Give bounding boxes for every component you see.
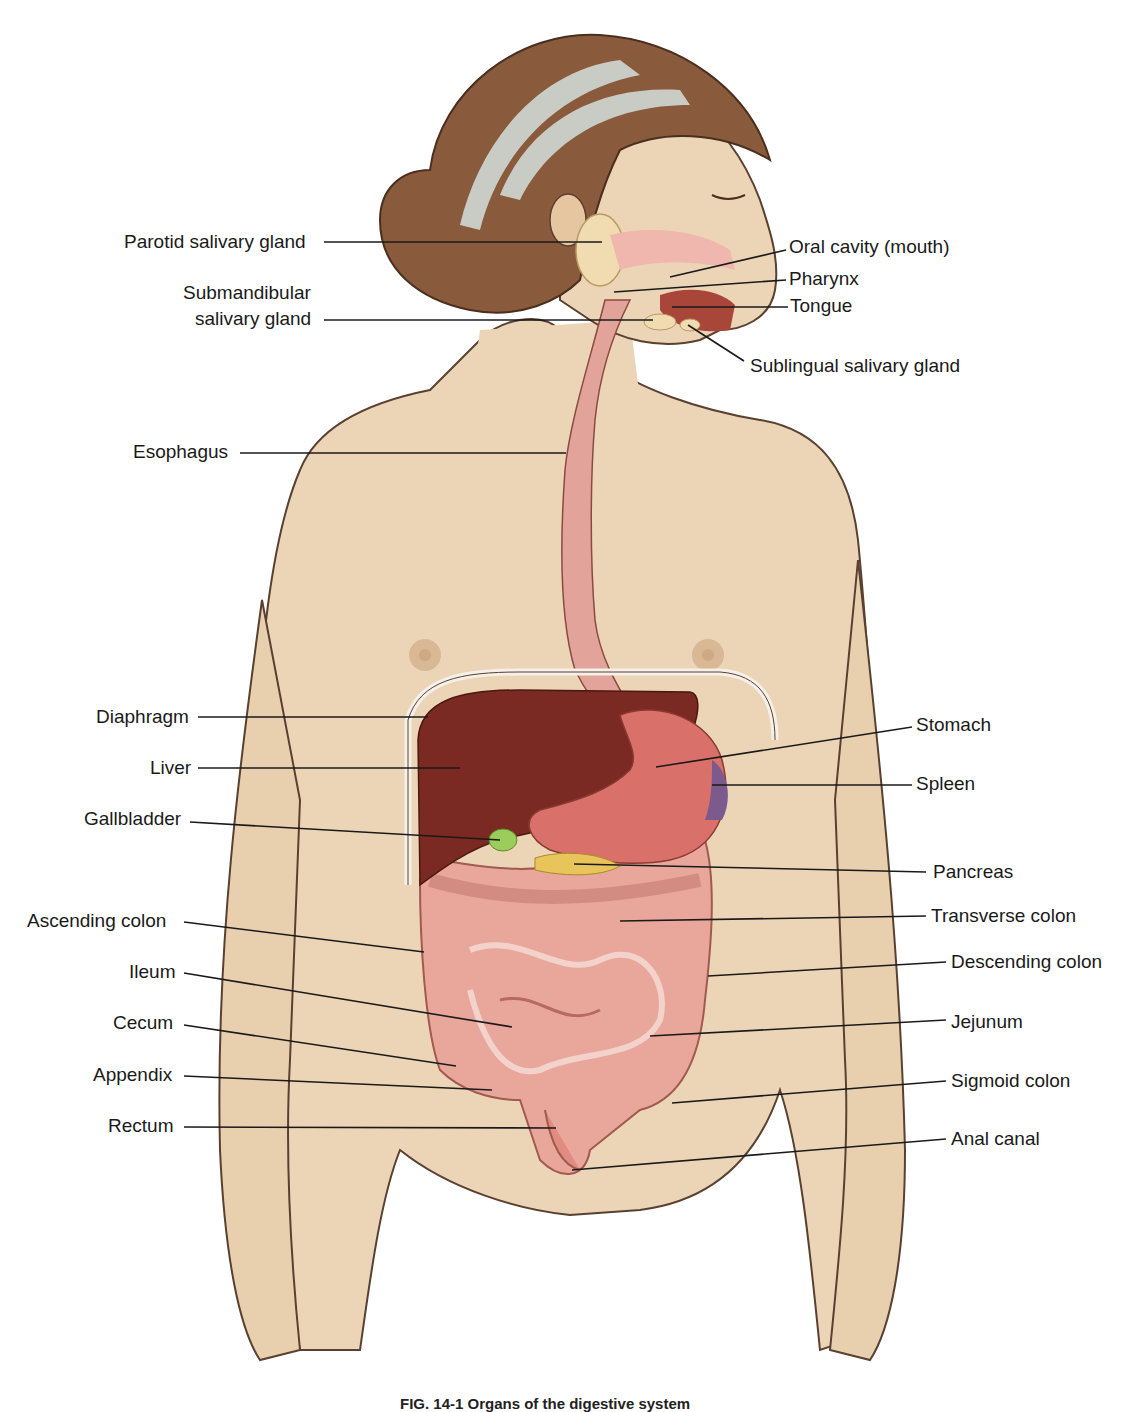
label-tongue: Tongue [790, 295, 852, 317]
label-anal-canal: Anal canal [951, 1128, 1040, 1150]
label-submandibular-line2: salivary gland [195, 308, 311, 330]
label-diaphragm: Diaphragm [96, 706, 189, 728]
label-sublingual-salivary-gland: Sublingual salivary gland [750, 355, 960, 377]
label-appendix: Appendix [93, 1064, 172, 1086]
label-descending-colon: Descending colon [951, 951, 1102, 973]
label-pancreas: Pancreas [933, 861, 1013, 883]
label-rectum: Rectum [108, 1115, 173, 1137]
leader-line-rectum [184, 1127, 556, 1128]
label-pharynx: Pharynx [789, 268, 859, 290]
label-esophagus: Esophagus [133, 441, 228, 463]
label-stomach: Stomach [916, 714, 991, 736]
label-spleen: Spleen [916, 773, 975, 795]
figure-caption: FIG. 14-1 Organs of the digestive system [400, 1395, 690, 1412]
label-transverse-colon: Transverse colon [931, 905, 1076, 927]
label-parotid-salivary-gland: Parotid salivary gland [124, 231, 306, 253]
label-gallbladder: Gallbladder [84, 808, 181, 830]
label-cecum: Cecum [113, 1012, 173, 1034]
label-submandibular-line1: Submandibular [183, 282, 311, 304]
label-oral-cavity: Oral cavity (mouth) [789, 236, 949, 258]
label-ileum: Ileum [129, 961, 175, 983]
label-sigmoid-colon: Sigmoid colon [951, 1070, 1070, 1092]
label-ascending-colon: Ascending colon [27, 910, 166, 932]
label-jejunum: Jejunum [951, 1011, 1023, 1033]
label-liver: Liver [150, 757, 191, 779]
